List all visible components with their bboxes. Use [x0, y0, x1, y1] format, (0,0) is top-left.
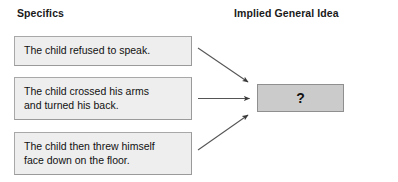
question-mark-label: ? — [296, 91, 305, 105]
specific-detail-text-1: The child refused to speak. — [24, 44, 150, 58]
specific-detail-box-3: The child then threw himself face down o… — [14, 132, 192, 175]
arrow-detail-3 — [198, 115, 248, 150]
specific-detail-box-2: The child crossed his arms and turned hi… — [14, 77, 192, 120]
implied-general-idea-box: ? — [257, 84, 344, 112]
specific-detail-text-2: The child crossed his arms and turned hi… — [24, 85, 149, 112]
arrow-detail-1 — [198, 48, 248, 82]
specific-detail-text-3: The child then threw himself face down o… — [24, 140, 155, 167]
inference-diagram: Specifics Implied General Idea The child… — [0, 0, 398, 182]
column-header-implied-general-idea: Implied General Idea — [234, 7, 339, 19]
specific-detail-box-1: The child refused to speak. — [14, 36, 192, 66]
column-header-specifics: Specifics — [17, 7, 64, 19]
